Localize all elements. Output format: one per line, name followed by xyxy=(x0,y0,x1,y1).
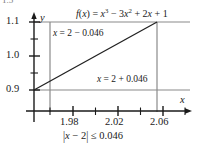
y-axis-label: y xyxy=(40,13,45,24)
x-axis-arrow-icon xyxy=(185,108,192,113)
x-tick-label-2: 2.02 xyxy=(105,117,123,128)
x-tick-label-1: 1.98 xyxy=(60,117,78,128)
function-expression-label: f(x) = x3 − 3x2 + 2x + 1 xyxy=(76,8,168,19)
y-tick-label-2: 1.0 xyxy=(6,50,19,61)
y-tick-label-1: 1.1 xyxy=(6,16,19,27)
annotation-right-bound: x = 2 + 0.046 xyxy=(97,75,148,85)
annotation-left-bound: x = 2 − 0.046 xyxy=(53,29,104,39)
y-axis-arrow-icon xyxy=(31,12,36,19)
y-tick-label-3: 0.9 xyxy=(6,84,19,95)
x-tick-label-3: 2.06 xyxy=(150,117,168,128)
figure-caption: |x − 2| ≤ 0.046 xyxy=(63,131,123,142)
function-graph-figure: 1.5 xyxy=(0,0,198,148)
x-axis-label: x xyxy=(180,95,185,106)
